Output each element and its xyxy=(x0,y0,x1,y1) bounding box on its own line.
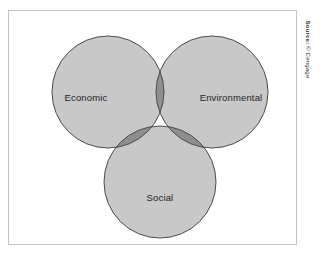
source-credit-value: © Cengage xyxy=(306,44,313,78)
venn-label-environmental: Environmental xyxy=(200,92,263,103)
source-credit-text: Source: © Cengage xyxy=(306,21,313,79)
source-credit: Source: © Cengage xyxy=(299,8,319,138)
venn-label-economic: Economic xyxy=(65,92,108,103)
venn-diagram: Economic Environmental Social xyxy=(8,10,297,245)
figure-root: Economic Environmental Social Source: © … xyxy=(0,0,322,258)
venn-label-social: Social xyxy=(147,192,174,203)
source-credit-prefix: Source: xyxy=(306,21,313,45)
